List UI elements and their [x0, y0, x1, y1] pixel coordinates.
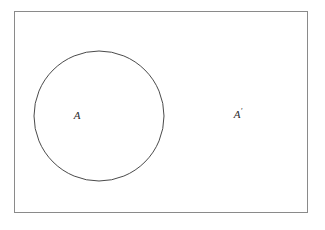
venn-diagram-figure: A A′: [0, 0, 325, 230]
prime-symbol: ′: [240, 107, 242, 116]
set-a-complement-label: A′: [233, 107, 243, 120]
universal-set-rectangle: [15, 12, 308, 213]
set-a-label-text: A: [73, 109, 81, 121]
set-a-label: A: [73, 109, 81, 121]
venn-diagram-canvas: A A′: [0, 0, 325, 230]
set-a-circle: [34, 51, 164, 181]
